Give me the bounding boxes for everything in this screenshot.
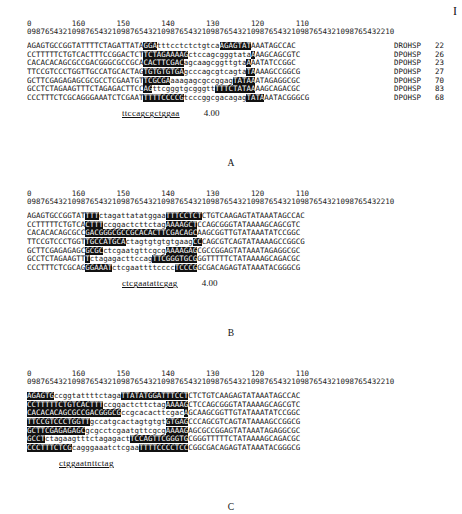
sequence-segment: ctccagcgggtata [188,51,251,59]
highlighted-segment: GGAAAT [85,264,112,272]
sequence-text: GCTTCGAGAGAGCGCGCCTCGAATGTTCGCGAaaagagcg… [27,77,379,86]
sequence-segment: AGAGTGCCGGTATTTTCTAGATTATA [27,42,143,50]
highlighted-segment: TATA [246,94,264,102]
panel-c: 0 160 150 140 130 120 110 09876543210987… [27,370,457,468]
consensus-motif: ttccagcgctggaa [122,108,180,118]
sequence-segment: GCGACAGAGTATAAATACGGGCG [197,264,300,272]
sequence-segment: AAGCGGTTGTATAAATATCCGGC [197,229,300,237]
sequence-text: CACACACAGCGCCGACGGGCGCCGCACACTTCGACAGCAA… [27,229,379,238]
sequence-segment: ctcgaatgttcgcg [103,247,166,255]
highlighted-segment: AAAAGAG [166,247,197,255]
sequence-text: TTCCGTCCCTGGTTgccatgcactagtgtgtGTGAGCCCA… [27,418,379,427]
sequence-segment: tcccggcgacagag [184,94,247,102]
sequence-segment: tttcctctctgtca [157,42,220,50]
sequence-segment: CCAGCGGGTATAAAAGCAGCGTC [197,221,300,229]
sequence-segment: GGTTTTTCTATAAAAGCAGACGC [197,255,300,263]
sequence-segment: AGCGCCGGAGTATAAATAGAGGCGC [188,427,300,435]
sequence-segment: AATATCCGGC [251,59,296,67]
sequence-segment: CTCCAGCGGGTATAAAAGCAGCGTC [188,401,300,409]
highlighted-segment: TGCCATGCA [85,238,125,246]
highlighted-segment: TTTTCCCCTCC [139,444,188,452]
sequence-segment: ATAGAGGCGC [255,77,300,85]
sequence-text: GCCTctagaagtttctagagactTCCAGTTCGGGTGCGGG… [27,435,379,444]
highlighted-segment: TTCGGGTGCG [152,255,197,263]
sequence-row: GCTTCGAGAGAGCgcgcctcgaatgttcgcgAAAAGAGCG… [27,427,457,436]
highlighted-segment: TCCCG [175,264,197,272]
highlighted-segment: TCGCGA [143,77,170,85]
sequence-segment: CACACACAGCGCC [27,229,85,237]
sequence-segment: CACACACAGCGCCGACGGGCGCCGCA [27,59,143,67]
sequence-row: AGAGTGCCGGTATTTTctagattatatggaaTTTCCTCTC… [27,212,457,221]
sequence-segment: AAGCAGCGTC [255,51,300,59]
sequence-segment: gcccagcgtcagta [184,68,247,76]
panel-label-a: A [0,158,462,168]
sequence-segment: CTGTCAAGAGTATAAATAGCCAC [202,212,305,220]
highlighted-segment: TTCCGTCCCTGGTT [27,418,90,426]
sequence-text: CACACACAGCGCCGACGGGCGCCGCACACTTCGACagcaa… [27,59,379,68]
consensus-score: 4.00 [204,108,220,118]
sequence-text: TTCCGTCCCTGGTTGCCATGCActagtgtgtgtgaagCCC… [27,238,379,247]
sequence-segment: AAGCAGACGC [255,85,300,93]
sequence-row: GCTTCGAGAGAGCGCGCctcgaatgttcgcgAAAAGAGCG… [27,247,457,256]
consensus-score: 4.00 [202,278,218,288]
sequence-segment: GCCTCTAGAAGTTTCTAGAGACTTCC [27,85,143,93]
highlighted-segment: CCCTTTCTCG [27,444,72,452]
sequence-segment: gcgcctcgaatgttcgcg [85,427,166,435]
highlighted-segment: AAAAG [166,401,188,409]
highlighted-segment: TGTGTGTGA [143,68,183,76]
highlighted-segment: AGAGTG [27,392,54,400]
highlighted-segment: CACTTCGAC [143,59,183,67]
sequence-row: CCCTTTCTCGcagggaaatctcgaaTTTTCCCCTCCCGGC… [27,444,457,453]
sequence-text: CCCTTTCTCGCAGGGAAATctcgaattttccccTCCCGGC… [27,264,379,273]
sequence-segment: ctagagacttccag [90,255,153,263]
consensus-line: ttccagcgctggaa 4.00 [122,108,457,118]
sequence-row: TTCCGTCCCTGGTTGCCATGCActagtgtgtgtgaagCCC… [27,238,457,247]
highlighted-segment: TCCAGTTCGGGTG [130,435,188,443]
sequence-text: CCTTTTTCTGTCACTTTCCGGACTCTTCTAGAAAAGctcc… [27,51,379,60]
panel-label-c: C [0,502,462,512]
highlighted-segment: TTTCTATAA [215,85,255,93]
highlighted-segment: TTTCCTCT [166,212,202,220]
sequence-segment: GCTTCGAGAGAGCGCGCCTCGAATGT [27,77,143,85]
sequence-segment: ctagattatatggaa [99,212,166,220]
sequence-segment: CAGCGTCAGTATAAAAGCCGGCG [202,238,305,246]
sequence-text: GCTTCGAGAGAGCgcgcctcgaatgttcgcgAAAAGAGCG… [27,427,379,436]
position-ruler-units: 0987654321098765432109876543210987654321… [27,28,457,36]
sequence-alignment: AGAGTGccggtattttctagaTTATATGGATTTCCTCTCT… [27,392,457,452]
sequence-segment: CGGCGACAGAGTATAAATACGGGCG [188,444,300,452]
sequence-text: AGAGTGccggtattttctagaTTATATGGATTTCCTCTCT… [27,392,379,401]
sequence-segment: CGGGTTTTTCTATAAAAGCAGACGC [188,435,300,443]
sequence-row: CACACACAGCGCCGACGGGCGccgcacacttcgacAGCAA… [27,409,457,418]
highlighted-segment: CACACACAGCGCCGACGGGCG [27,409,121,417]
highlighted-segment: GACGGGCGCCGCACACTTCGACAGC [85,229,197,237]
sequence-segment: ctagaagtttctagagact [45,435,130,443]
sequence-id-number: 68 [435,94,444,103]
sequence-row: AGAGTGCCGGTATTTTCTAGATTATAGGAtttcctctctg… [27,42,457,51]
panel-a: 0 160 150 140 130 120 110 09876543210987… [27,20,457,118]
sequence-segment: AGAGTGCCGGTAT [27,212,85,220]
consensus-line: ctggaatnttctag [59,458,457,468]
highlighted-segment: GCCT [27,435,45,443]
sequence-segment: ctcgaattttcccc [112,264,175,272]
sequence-row: TTCCGTCCCTGGTTgccatgcactagtgtgtGTGAGCCCA… [27,418,457,427]
highlighted-segment: TATAA [233,77,255,85]
panel-label-b: B [0,328,462,338]
highlighted-segment: GCGC [85,247,103,255]
sequence-segment: CCTTTTTCTGTCACTTTCCGGACTCT [27,51,143,59]
position-ruler-units: 0987654321098765432109876543210987654321… [27,378,457,386]
highlighted-segment: CTTT [85,221,103,229]
sequence-row: CACACACAGCGCCGACGGGCGCCGCACACTTCGACagcaa… [27,59,457,68]
sequence-segment: TTCCGTCCCTGGT [27,238,85,246]
sequence-row: CACACACAGCGCCGACGGGCGCCGCACACTTCGACAGCAA… [27,229,457,238]
sequence-alignment: AGAGTGCCGGTATTTTctagattatatggaaTTTCCTCTC… [27,212,457,272]
highlighted-segment: TCTAGAAAAG [143,51,188,59]
page-number-fragment: I [453,4,457,19]
sequence-segment: CCCTTTCTCGCAGGGAAATCTCGAAT [27,94,143,102]
consensus-line: ctcgaatattcgag 4.00 [122,278,457,288]
sequence-segment: TTCCGTCCCTGGTTGCCATGCACTAG [27,68,143,76]
highlighted-segment: GGA [143,42,156,50]
highlighted-segment: TTT [85,212,98,220]
highlighted-segment: CC [193,238,202,246]
sequence-text: CCTTTTTCTGTCACTTTccggactcttctagAAAAGCTCC… [27,221,379,230]
sequence-text: CCCTTTCTCGcagggaaatctcgaaTTTTCCCCTCCCGGC… [27,444,379,453]
